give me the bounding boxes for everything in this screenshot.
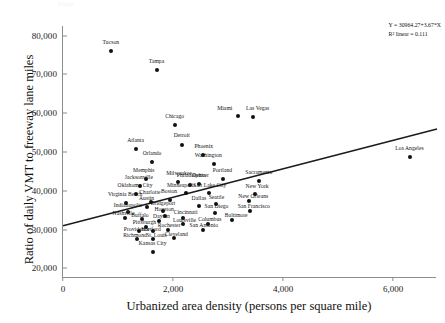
point-label: Washington [195, 153, 222, 159]
point-label: Seattle [209, 195, 225, 201]
point-label: Phoenix [194, 144, 213, 150]
point-label: San Francisco [238, 204, 270, 210]
scatter-point[interactable] [236, 114, 240, 118]
point-label: Tucson [103, 40, 120, 46]
point-label: St. Louis [146, 233, 167, 239]
point-label: Virginia Beach [108, 192, 142, 198]
figure-caption: Figure [58, 1, 74, 7]
point-label: Tampa [149, 59, 164, 65]
point-label: Denver [192, 173, 209, 179]
point-label: New Orleans [238, 194, 268, 200]
point-label: Las Vegas [246, 106, 269, 112]
point-label: Memphis [133, 168, 154, 174]
point-label: Dallas [192, 196, 207, 202]
chart-figure: Figure Y = 30964.27+3.67*X R² linear = 0… [0, 0, 445, 323]
point-label: Chicago [165, 114, 184, 120]
scatter-point[interactable] [150, 160, 154, 164]
point-label: Oklahoma City [118, 183, 153, 189]
scatter-point[interactable] [151, 250, 155, 254]
point-label: Atlanta [127, 138, 144, 144]
point-label: Detroit [174, 133, 190, 139]
scatter-point[interactable] [134, 147, 138, 151]
x-tick-label: 6,000 [383, 277, 403, 294]
point-label: San Diego [204, 204, 228, 210]
scatter-point[interactable] [221, 177, 225, 181]
point-label: Buffalo [131, 213, 148, 219]
point-label: Houston [155, 207, 174, 213]
scatter-point[interactable] [180, 143, 184, 147]
scatter-point[interactable] [173, 123, 177, 127]
point-label: Portland [213, 168, 232, 174]
point-label: Jacksonville [125, 175, 153, 181]
point-label: Cincinnati [174, 210, 198, 216]
y-axis-title: Ratio of daily VMT to freeway lane miles [22, 35, 37, 285]
plot-area: 20,00030,00040,00050,00060,00070,00080,0… [62, 26, 436, 278]
scatter-point[interactable] [155, 68, 159, 72]
point-label: Richmond [123, 233, 147, 239]
point-label: Baltimore [225, 213, 248, 219]
regression-line [63, 26, 436, 277]
x-tick-label: 0 [61, 277, 66, 294]
point-label: Miami [217, 106, 232, 112]
x-axis-title: Urbanized area density (persons per squa… [62, 299, 436, 314]
point-label: New York [246, 184, 269, 190]
point-label: San Antonio [190, 223, 218, 229]
point-label: Los Angeles [395, 146, 423, 152]
point-label: Orlando [143, 151, 162, 157]
x-tick-label: 2,000 [163, 277, 183, 294]
point-label: Indianapolis [114, 203, 142, 209]
point-label: Kansas City [139, 241, 167, 247]
point-label: Sacramento [245, 170, 272, 176]
point-label: Boston [161, 189, 177, 195]
point-label: Cleveland [165, 232, 188, 238]
scatter-point[interactable] [408, 155, 412, 159]
x-tick-label: 4,000 [273, 277, 293, 294]
